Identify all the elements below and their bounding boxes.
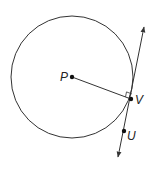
label-v: V — [135, 93, 144, 107]
label-p: P — [60, 70, 68, 84]
point-u — [122, 129, 126, 133]
point-p — [70, 75, 74, 79]
label-u: U — [127, 129, 136, 143]
radius-pv — [72, 77, 131, 99]
point-v — [129, 97, 133, 101]
geometry-diagram: P V U — [0, 0, 153, 171]
